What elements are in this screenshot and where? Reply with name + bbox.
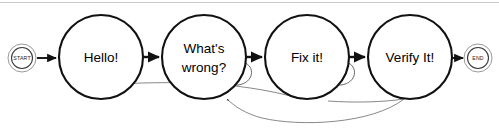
node-whats-wrong[interactable]: What's wrong?	[162, 15, 246, 99]
node-start[interactable]: START	[8, 44, 36, 72]
node-verify-it[interactable]: Verify It!	[368, 15, 452, 99]
whats-wrong-label-line1: What's	[184, 41, 225, 56]
node-hello[interactable]: Hello!	[59, 15, 143, 99]
start-label: START	[13, 55, 31, 61]
node-fix-it[interactable]: Fix it!	[265, 15, 349, 99]
hello-label: Hello!	[84, 50, 119, 65]
diagram-canvas: START Hello! What's wrong? Fix it! Verif…	[0, 0, 499, 130]
whats-wrong-label-line2: wrong?	[181, 60, 226, 75]
fix-it-label: Fix it!	[291, 50, 323, 65]
flowchart-svg: START Hello! What's wrong? Fix it! Verif…	[0, 0, 499, 130]
verify-it-label: Verify It!	[386, 50, 435, 65]
end-label: END	[472, 55, 484, 61]
node-end[interactable]: END	[464, 44, 492, 72]
feedback-verify-it-to-whats-wrong	[227, 99, 404, 123]
whats-wrong-circle	[162, 15, 246, 99]
feedback-verify-it-tail	[328, 99, 404, 102]
